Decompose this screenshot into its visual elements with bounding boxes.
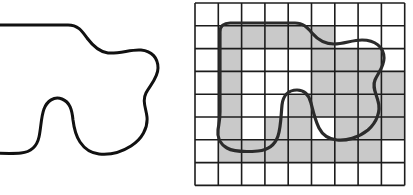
grid-cell-shaded (381, 117, 404, 140)
grid-cell-shaded (312, 49, 335, 72)
grid-cell-shaded (381, 71, 404, 94)
grid-cell-shaded (288, 140, 311, 163)
grid-cell-shaded (312, 71, 335, 94)
figure-container (0, 0, 413, 195)
grid-cell-shaded (265, 26, 288, 49)
grid-cell-shaded (335, 94, 358, 117)
grid-cell-shaded (242, 26, 265, 49)
grid-cell-shaded (335, 49, 358, 72)
grid-cell-shaded (218, 94, 241, 117)
grid-cell-shaded (335, 140, 358, 163)
grid-cell-shaded (265, 140, 288, 163)
grid-cell-shaded (358, 49, 381, 72)
grid-cell-shaded (218, 71, 241, 94)
grid-cell-shaded (381, 94, 404, 117)
grid-cell-shaded (335, 71, 358, 94)
grid-cell-shaded (218, 117, 241, 140)
grid-cell-shaded (358, 140, 381, 163)
grid-cell-shaded (218, 49, 241, 72)
figure-svg (0, 0, 413, 195)
grid-cell-shaded (288, 117, 311, 140)
grid-cell-shaded (312, 140, 335, 163)
